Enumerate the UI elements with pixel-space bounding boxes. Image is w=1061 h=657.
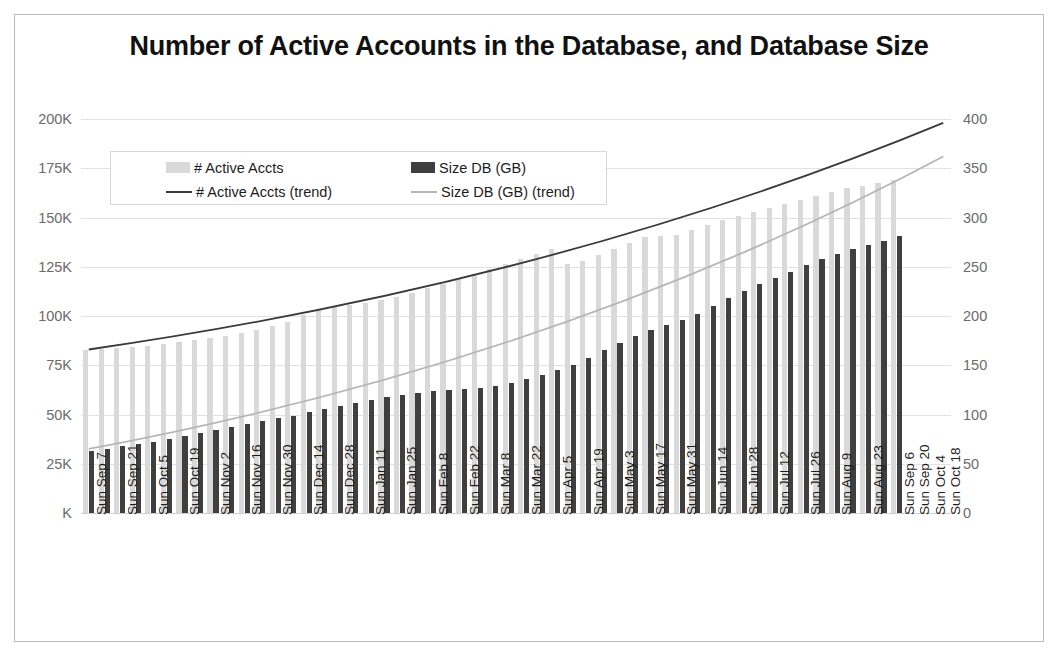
right-axis-tick-label: 150 xyxy=(963,357,987,373)
bar-active-accts xyxy=(114,348,119,513)
left-axis-tick-label: 25K xyxy=(46,456,72,472)
left-axis-tick-label: 125K xyxy=(38,259,72,275)
x-axis-tick-label: Sun Nov 2 xyxy=(218,452,233,515)
bar-active-accts xyxy=(705,225,710,513)
bar-active-accts xyxy=(798,200,803,513)
bar-active-accts xyxy=(611,249,616,513)
x-axis-tick-label: Sun Oct 5 xyxy=(156,455,171,515)
left-axis-tick-label: K xyxy=(62,505,72,521)
right-axis-tick-label: 100 xyxy=(963,407,987,423)
left-axis-tick-label: 200K xyxy=(38,111,72,127)
x-axis-labels: Sun Sep 7Sun Sep 21Sun Oct 5Sun Oct 19Su… xyxy=(81,515,951,645)
legend-item: Size DB (GB) xyxy=(411,157,526,178)
x-axis-tick-label: Sun May 3 xyxy=(622,450,637,515)
bar-active-accts xyxy=(239,333,244,513)
right-axis-tick-label: 300 xyxy=(963,210,987,226)
x-axis-tick-label: Sun Sep 20 xyxy=(917,444,932,515)
x-axis-tick-label: Sun Dec 14 xyxy=(311,444,326,515)
x-axis-tick-label: Sun Sep 7 xyxy=(94,452,109,515)
x-axis-tick-label: Sun Mar 22 xyxy=(529,445,544,515)
gridline xyxy=(81,218,951,219)
bar-active-accts xyxy=(207,338,212,513)
left-axis-tick-label: 100K xyxy=(38,308,72,324)
x-axis-tick-label: Sun Nov 16 xyxy=(249,444,264,515)
bar-active-accts xyxy=(549,249,554,513)
bar-active-accts xyxy=(425,288,430,513)
bar-active-accts xyxy=(518,259,523,513)
bar-active-accts xyxy=(674,235,679,513)
bar-active-accts xyxy=(176,342,181,513)
bar-active-accts xyxy=(394,297,399,513)
chart-legend: # Active AcctsSize DB (GB)# Active Accts… xyxy=(110,151,607,205)
legend-item: Size DB (GB) (trend) xyxy=(411,181,575,202)
x-axis-tick-label: Sun Oct 18 xyxy=(948,447,963,515)
right-axis-tick-label: 250 xyxy=(963,259,987,275)
right-axis-tick-label: 50 xyxy=(963,456,979,472)
x-axis-tick-label: Sun Jan 25 xyxy=(404,447,419,515)
legend-label: Size DB (GB) xyxy=(439,160,526,176)
left-axis-tick-label: 50K xyxy=(46,407,72,423)
bar-active-accts xyxy=(891,180,896,513)
bar-active-accts xyxy=(829,192,834,513)
legend-swatch-box-icon xyxy=(411,162,435,173)
x-axis-tick-label: Sun Sep 6 xyxy=(902,452,917,515)
bar-active-accts xyxy=(487,269,492,513)
x-axis-tick-label: Sun Aug 9 xyxy=(839,453,854,515)
legend-label: # Active Accts (trend) xyxy=(196,184,332,200)
x-axis-tick-label: Sun Nov 30 xyxy=(280,444,295,515)
bar-active-accts xyxy=(301,315,306,513)
legend-item: # Active Accts (trend) xyxy=(166,181,332,202)
bar-active-accts xyxy=(736,216,741,513)
x-axis-tick-label: Sun Jun 28 xyxy=(746,447,761,515)
x-axis-tick-label: Sun Dec 28 xyxy=(342,444,357,515)
bar-active-accts xyxy=(580,261,585,513)
right-axis-tick-label: 200 xyxy=(963,308,987,324)
x-axis-tick-label: Sun Apr 5 xyxy=(560,456,575,515)
x-axis-tick-label: Sun May 31 xyxy=(684,443,699,515)
x-axis-tick-label: Sun Jan 11 xyxy=(373,448,388,515)
x-axis-tick-label: Sun Aug 23 xyxy=(871,445,886,515)
chart-frame: Number of Active Accounts in the Databas… xyxy=(14,14,1044,642)
gridline xyxy=(81,119,951,120)
legend-label: Size DB (GB) (trend) xyxy=(441,184,575,200)
x-axis-tick-label: Sun Sep 21 xyxy=(125,444,140,515)
bar-active-accts xyxy=(860,186,865,513)
bar-active-accts xyxy=(83,350,88,514)
bar-active-accts xyxy=(332,307,337,513)
bar-active-accts xyxy=(145,346,150,513)
bar-active-accts xyxy=(642,237,647,513)
right-axis-tick-label: 350 xyxy=(963,160,987,176)
x-axis-tick-label: Sun Mar 8 xyxy=(498,453,513,515)
legend-swatch-box-icon xyxy=(166,162,190,173)
right-axis-tick-label: 400 xyxy=(963,111,987,127)
x-axis-tick-label: Sun Feb 22 xyxy=(467,445,482,515)
legend-swatch-line-icon xyxy=(166,191,192,193)
x-axis-tick-label: Sun Jul 12 xyxy=(777,451,792,515)
x-axis-tick-label: Sun Jul 26 xyxy=(808,451,823,515)
left-axis-tick-label: 75K xyxy=(46,357,72,373)
bar-active-accts xyxy=(456,279,461,513)
legend-label: # Active Accts xyxy=(194,160,283,176)
left-axis-tick-label: 150K xyxy=(38,210,72,226)
legend-item: # Active Accts xyxy=(166,157,283,178)
legend-swatch-line-icon xyxy=(411,191,437,193)
x-axis-tick-label: Sun Oct 4 xyxy=(933,455,948,515)
x-axis-tick-label: Sun Feb 8 xyxy=(436,453,451,515)
x-axis-tick-label: Sun Jun 14 xyxy=(715,447,730,515)
bar-active-accts xyxy=(767,208,772,513)
left-axis-tick-label: 175K xyxy=(38,160,72,176)
x-axis-tick-label: Sun May 17 xyxy=(653,443,668,515)
x-axis-tick-label: Sun Oct 19 xyxy=(187,447,202,515)
bar-active-accts xyxy=(270,326,275,513)
chart-title: Number of Active Accounts in the Databas… xyxy=(15,31,1043,62)
x-axis-tick-label: Sun Apr 19 xyxy=(591,448,606,515)
right-axis-tick-label: 0 xyxy=(963,505,971,521)
bar-active-accts xyxy=(363,303,368,513)
